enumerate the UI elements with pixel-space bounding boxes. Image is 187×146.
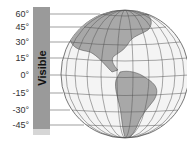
visibility-diagram: 60° 45° 30° 15° 0° -15° -30° -45° Visibl…: [0, 0, 187, 146]
globe: [0, 0, 187, 146]
